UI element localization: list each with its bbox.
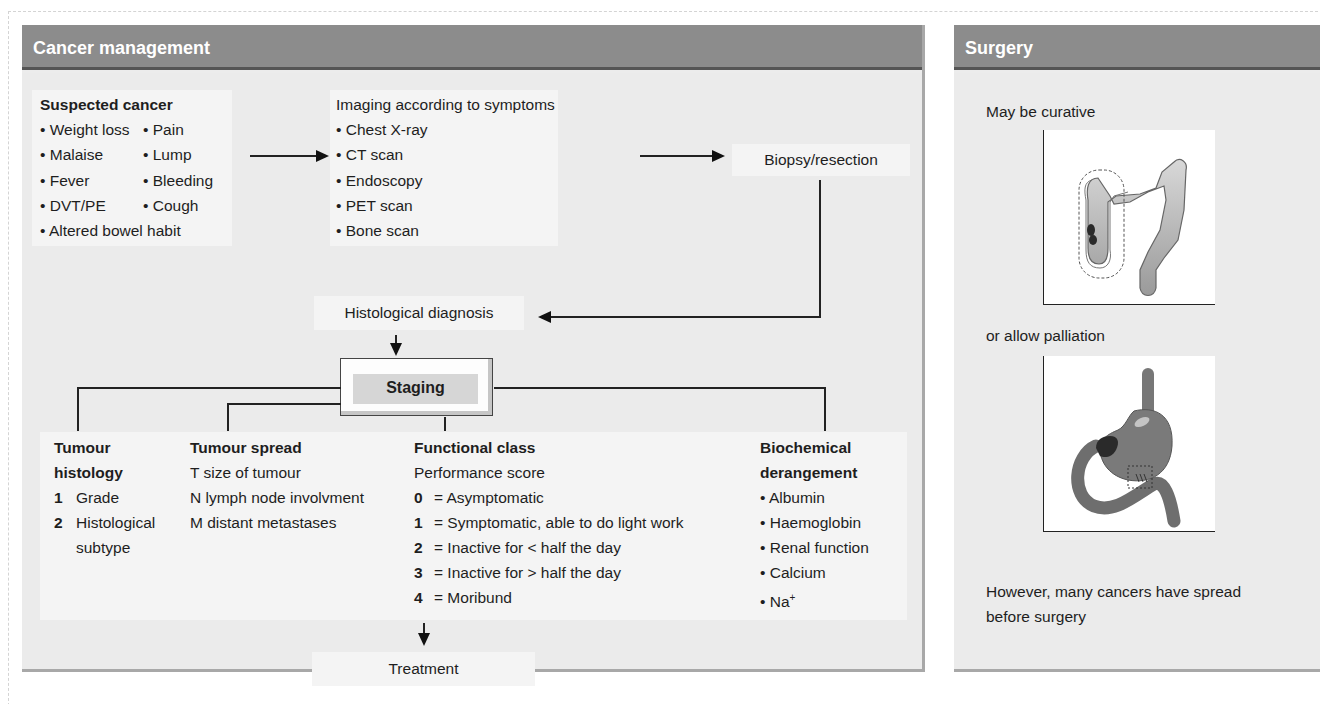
biochemical-item: • Calcium bbox=[760, 560, 826, 586]
performance-score-item: 0= Asymptomatic bbox=[414, 485, 544, 511]
symptom-item: • Malaise bbox=[40, 142, 103, 168]
staging-categories-box: Tumour histology 1Grade 2Histological su… bbox=[40, 432, 907, 620]
stomach-bypass-illustration bbox=[1043, 356, 1215, 532]
curative-label: May be curative bbox=[986, 99, 1095, 125]
histology-item-cont: subtype bbox=[76, 535, 130, 561]
biochemical-item: • Renal function bbox=[760, 535, 869, 561]
biochemical-heading: Biochemical bbox=[760, 435, 851, 461]
histology-item: 1Grade bbox=[54, 485, 119, 511]
functional-class-heading: Functional class bbox=[414, 435, 535, 461]
performance-score-item: 2= Inactive for < half the day bbox=[414, 535, 621, 561]
arrow-right-icon bbox=[316, 150, 329, 162]
connector-line bbox=[77, 387, 341, 389]
symptom-item: • Pain bbox=[143, 117, 184, 143]
spread-item: M distant metastases bbox=[190, 510, 336, 536]
symptom-item: • Fever bbox=[40, 168, 89, 194]
palliation-label: or allow palliation bbox=[986, 323, 1105, 349]
connector-line bbox=[824, 387, 826, 431]
arrow-down-icon bbox=[390, 343, 402, 356]
tumour-histology-heading: histology bbox=[54, 460, 123, 486]
arrow-left-icon bbox=[538, 311, 551, 323]
connector-line bbox=[494, 387, 825, 389]
histological-diagnosis-box: Histological diagnosis bbox=[314, 296, 524, 330]
symptom-item: • Lump bbox=[143, 142, 192, 168]
note-line: However, many cancers have spread bbox=[986, 579, 1241, 605]
colon-resection-illustration bbox=[1043, 130, 1215, 305]
symptom-item: • DVT/PE bbox=[40, 193, 106, 219]
imaging-box: Imaging according to symptoms • Chest X-… bbox=[330, 90, 558, 246]
biochemical-item: • Albumin bbox=[760, 485, 825, 511]
surgery-panel: Surgery May be curative bbox=[954, 25, 1320, 672]
histology-item: 2Histological bbox=[54, 510, 155, 536]
panel-title: Cancer management bbox=[22, 25, 922, 70]
suspected-cancer-heading: Suspected cancer bbox=[40, 92, 173, 118]
performance-score-item: 4= Moribund bbox=[414, 585, 512, 611]
performance-score-item: 3= Inactive for > half the day bbox=[414, 560, 621, 586]
arrow-right-icon bbox=[712, 150, 725, 162]
imaging-heading: Imaging according to symptoms bbox=[336, 92, 555, 118]
biochemical-item: • Na+ bbox=[760, 585, 795, 615]
surgery-body: May be curative or allow pa bbox=[954, 73, 1320, 669]
connector-line bbox=[227, 403, 229, 431]
biochemical-item: • Haemoglobin bbox=[760, 510, 861, 536]
treatment-label: Treatment bbox=[312, 656, 535, 682]
connector-line bbox=[227, 403, 341, 405]
symptom-item: • Altered bowel habit bbox=[40, 218, 181, 244]
performance-score-item: 1= Symptomatic, able to do light work bbox=[414, 510, 683, 536]
biopsy-box: Biopsy/resection bbox=[732, 144, 910, 176]
spread-item: T size of tumour bbox=[190, 460, 301, 486]
note-line: before surgery bbox=[986, 604, 1086, 630]
connector-line bbox=[444, 417, 446, 431]
imaging-item: • Endoscopy bbox=[336, 168, 422, 194]
symptom-item: • Cough bbox=[143, 193, 198, 219]
cancer-management-body: Suspected cancer • Weight loss • Malaise… bbox=[22, 73, 922, 669]
staging-box: Staging bbox=[340, 358, 493, 416]
biochemical-heading: derangement bbox=[760, 460, 857, 486]
connector-line bbox=[250, 155, 320, 157]
treatment-box: Treatment bbox=[312, 652, 535, 686]
imaging-item: • Chest X-ray bbox=[336, 117, 428, 143]
colon-icon bbox=[1044, 130, 1216, 305]
biopsy-label: Biopsy/resection bbox=[732, 147, 910, 173]
suspected-cancer-box: Suspected cancer • Weight loss • Malaise… bbox=[32, 90, 232, 246]
connector-line bbox=[549, 316, 821, 318]
connector-line bbox=[640, 155, 715, 157]
cancer-management-panel: Cancer management Suspected cancer • Wei… bbox=[22, 25, 925, 672]
connector-line bbox=[819, 180, 821, 318]
tumour-spread-heading: Tumour spread bbox=[190, 435, 302, 461]
histological-diagnosis-label: Histological diagnosis bbox=[314, 300, 524, 326]
panel-title: Surgery bbox=[954, 25, 1320, 70]
symptom-item: • Weight loss bbox=[40, 117, 130, 143]
imaging-item: • CT scan bbox=[336, 142, 403, 168]
tumour-histology-heading: Tumour bbox=[54, 435, 111, 461]
arrow-down-icon bbox=[418, 633, 430, 646]
staging-label: Staging bbox=[353, 374, 478, 404]
spread-item: N lymph node involvment bbox=[190, 485, 364, 511]
imaging-item: • Bone scan bbox=[336, 218, 419, 244]
stomach-icon bbox=[1044, 356, 1216, 532]
connector-line bbox=[77, 387, 79, 431]
functional-class-subheading: Performance score bbox=[414, 460, 545, 486]
symptom-item: • Bleeding bbox=[143, 168, 213, 194]
imaging-item: • PET scan bbox=[336, 193, 413, 219]
